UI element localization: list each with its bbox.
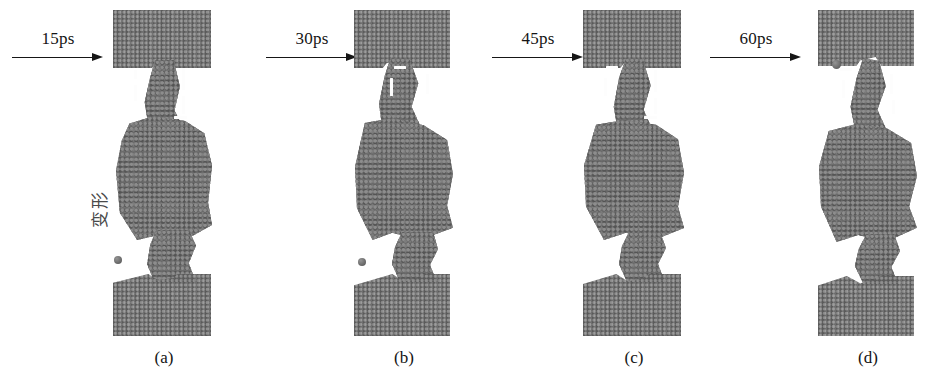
- neck-dash-right-upper: [426, 74, 429, 94]
- arrow-45ps: 45ps: [492, 30, 584, 63]
- panel-d: [812, 8, 924, 338]
- lower-grip-block: [354, 274, 450, 336]
- neck-dash-right-upper: [890, 74, 893, 94]
- neck-dash-right-foot: [174, 116, 187, 119]
- upper-grip-block: [113, 10, 211, 68]
- arrow-15ps-shaft: [12, 53, 104, 63]
- arrow-30ps: 30ps: [266, 30, 358, 63]
- panel-d-caption: (d): [812, 348, 924, 368]
- stray-atom: [832, 60, 841, 69]
- stray-atom: [114, 256, 122, 264]
- panel-a: [108, 8, 220, 338]
- panel-a-stage: [108, 8, 220, 338]
- arrow-45ps-label: 45ps: [492, 30, 584, 47]
- neck-dash-top-left: [840, 68, 852, 71]
- amorphous-core: [584, 120, 684, 240]
- panel-b-caption: (b): [348, 348, 460, 368]
- neck-dash-left-lower: [842, 80, 845, 98]
- arrow-30ps-label: 30ps: [266, 30, 358, 47]
- upper-neck-ligament: [848, 58, 890, 132]
- arrow-15ps: 15ps: [12, 30, 104, 63]
- panel-c-caption: (c): [578, 348, 690, 368]
- neck-dash-right-lower: [182, 96, 185, 114]
- lower-grip-block: [818, 276, 914, 336]
- amorphous-core: [116, 116, 212, 240]
- neck-dash-right-upper: [182, 68, 185, 90]
- arrow-45ps-shaft: [492, 53, 584, 63]
- figure-root: 变形 15ps 30ps 45ps 60ps: [0, 0, 928, 384]
- amorphous-core: [819, 124, 917, 242]
- neck-dash-right-upper: [654, 70, 657, 92]
- panel-b-stage: [348, 8, 460, 338]
- neck-dash-left-lower: [604, 78, 607, 96]
- arrow-60ps-shaft: [710, 53, 802, 63]
- neck-dash-top-left: [606, 66, 618, 69]
- neck-dash-top: [394, 66, 406, 69]
- arrow-15ps-label: 15ps: [12, 30, 104, 47]
- arrow-30ps-shaft: [266, 53, 358, 63]
- stray-atom: [358, 258, 366, 266]
- lower-grip-block: [113, 274, 211, 336]
- arrow-head-icon: [790, 53, 801, 61]
- neck-dash-right-foot: [644, 116, 657, 119]
- arrow-line: [710, 57, 794, 58]
- arrow-line: [492, 57, 576, 58]
- panel-d-stage: [812, 8, 924, 338]
- panel-c: [578, 8, 690, 338]
- amorphous-core: [355, 118, 453, 240]
- arrow-line: [266, 57, 350, 58]
- upper-grip-block: [818, 10, 914, 66]
- panel-a-caption: (a): [108, 348, 220, 368]
- arrow-head-icon: [92, 53, 103, 61]
- lower-grip-block: [583, 274, 681, 336]
- neck-dash-right-lower: [892, 100, 895, 114]
- arrow-60ps-label: 60ps: [710, 30, 802, 47]
- arrow-line: [12, 57, 96, 58]
- arrow-60ps: 60ps: [710, 30, 802, 63]
- panel-b: [348, 8, 460, 338]
- neck-dash-left-lower: [134, 85, 137, 101]
- panel-c-stage: [578, 8, 690, 338]
- neck-dash-right-lower: [654, 98, 657, 114]
- neck-dash-left-lower: [390, 78, 393, 96]
- neck-dash-left-upper: [134, 70, 137, 79]
